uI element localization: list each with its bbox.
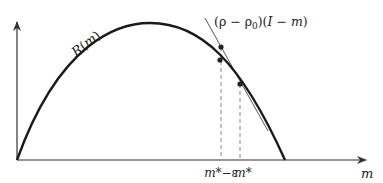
point-tangent-at-m-star-minus-eps xyxy=(218,44,223,49)
point-curve-at-m-star xyxy=(237,81,242,86)
diagram-canvas: R(m) (ρ − ρ0)(I − m) m*−ε m* m xyxy=(0,0,383,183)
revenue-curve xyxy=(17,23,285,160)
tick-label-m-star: m* xyxy=(234,166,251,180)
tangent-label: (ρ − ρ0)(I − m) xyxy=(214,14,308,31)
curve-label: R(m) xyxy=(68,28,103,60)
tick-label-m-star-minus-eps: m*−ε xyxy=(204,166,238,180)
point-curve-at-m-star-minus-eps xyxy=(217,57,222,62)
x-axis-label: m xyxy=(361,166,373,181)
